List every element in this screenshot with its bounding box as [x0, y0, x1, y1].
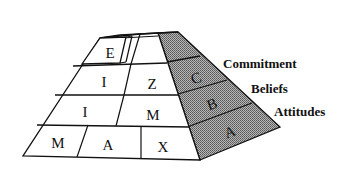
cell-label: M [51, 135, 64, 151]
side-label-beliefs: Beliefs [251, 81, 288, 96]
cell-label: Z [147, 76, 156, 92]
cell-label: M [146, 107, 159, 123]
side-label-commitment: Commitment [223, 56, 297, 71]
cell-label: E [105, 45, 114, 61]
cell-label: A [103, 137, 114, 153]
pyramid-diagram: E I Z I M M A X C B A Commitment Beliefs… [0, 0, 343, 170]
cell-block-e [82, 37, 126, 64]
cell-label: X [158, 139, 169, 155]
side-label-attitudes: Attitudes [274, 104, 325, 119]
cell-label: I [83, 104, 88, 120]
cell-label: I [102, 74, 107, 90]
